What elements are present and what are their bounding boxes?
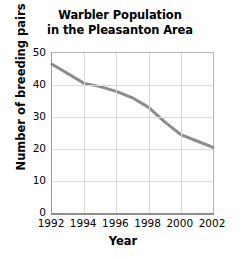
gridline-horizontal [52, 181, 213, 182]
y-tick-label: 30 [2, 111, 46, 121]
y-tick-label: 0 [2, 207, 46, 217]
y-tick-label: 20 [2, 143, 46, 153]
gridline-horizontal [52, 85, 213, 86]
chart-title-line-2: in the Pleasanton Area [0, 23, 240, 38]
gridline-horizontal [52, 149, 213, 150]
gridline-vertical [84, 53, 85, 213]
chart-figure: Warbler Population in the Pleasanton Are… [0, 0, 240, 257]
series-polyline [52, 64, 213, 147]
y-tick-label: 10 [2, 175, 46, 185]
gridline-horizontal [52, 117, 213, 118]
x-tick-label: 2002 [189, 217, 235, 229]
gridline-vertical [149, 53, 150, 213]
chart-title-line-1: Warbler Population [0, 8, 240, 23]
y-tick-label: 40 [2, 79, 46, 89]
x-axis-tick-labels: 199219941996199820002002 [51, 217, 212, 231]
y-axis-tick-labels: 01020304050 [0, 52, 46, 212]
plot-area [51, 52, 214, 215]
y-tick-label: 50 [2, 47, 46, 57]
chart-title: Warbler Population in the Pleasanton Are… [0, 8, 240, 38]
gridline-vertical [181, 53, 182, 213]
x-axis-title: Year [28, 234, 218, 248]
line-series [52, 53, 213, 213]
gridline-vertical [116, 53, 117, 213]
